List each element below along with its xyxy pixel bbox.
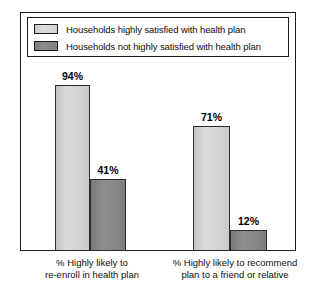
bar-value-label: 12% [230,215,267,227]
category-label-line: % Highly likely to recommend [152,257,318,269]
legend-item-label: Households highly satisfied with health … [66,24,245,35]
bar-group1-satisfied [193,126,230,251]
legend-swatch-dark-gray-icon [34,41,58,51]
category-label-recommend: % Highly likely to recommend plan to a f… [152,257,318,281]
category-label-line: % Highly likely to [14,257,170,269]
plot-area: 94% 41% 71% 12% [21,60,295,251]
bar-group1-not-satisfied [230,230,267,251]
bar-value-label: 41% [90,164,126,176]
bar-group0-satisfied [55,85,90,251]
bar-group0-not-satisfied [90,179,126,251]
legend-item-not-satisfied: Households not highly satisfied with hea… [34,38,288,54]
bar-value-label: 94% [55,70,90,82]
chart-legend: Households highly satisfied with health … [27,17,289,57]
category-label-line: plan to a friend or relative [152,269,318,281]
category-label-line: re-enroll in health plan [14,269,170,281]
legend-item-satisfied: Households highly satisfied with health … [34,21,288,37]
category-label-re-enroll: % Highly likely to re-enroll in health p… [14,257,170,281]
legend-item-label: Households not highly satisfied with hea… [66,41,261,52]
bar-value-label: 71% [193,111,230,123]
legend-swatch-light-gray-icon [34,24,58,34]
